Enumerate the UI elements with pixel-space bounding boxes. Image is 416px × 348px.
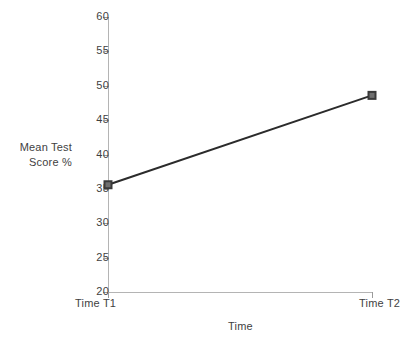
x-tick-label-t1: Time T1	[75, 297, 116, 310]
x-tick-label-t2: Time T2	[359, 297, 400, 310]
data-point-marker	[105, 181, 112, 188]
series-layer	[0, 0, 416, 348]
line-chart: Mean Test Score % 202530354045505560 Tim…	[0, 0, 416, 348]
series-line	[108, 95, 372, 184]
x-axis-title: Time	[108, 320, 373, 333]
data-point-marker	[369, 92, 376, 99]
